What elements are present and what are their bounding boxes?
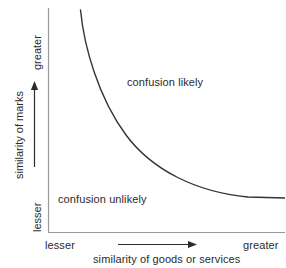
confusion-threshold-curve bbox=[81, 10, 286, 198]
y-axis-low-label: lesser bbox=[31, 203, 43, 232]
x-axis-low-label: lesser bbox=[45, 239, 75, 251]
y-axis-high-label: greater bbox=[31, 35, 43, 70]
region-label-confusion-unlikely: confusion unlikely bbox=[58, 193, 147, 205]
x-axis-title: similarity of goods or services bbox=[93, 253, 240, 265]
x-axis-high-label: greater bbox=[243, 239, 279, 251]
y-axis-up-arrow-icon bbox=[31, 81, 38, 167]
x-axis-right-arrow-icon bbox=[118, 241, 197, 248]
likelihood-of-confusion-chart: greater lesser similarity of marks confu… bbox=[0, 0, 285, 268]
region-label-confusion-likely: confusion likely bbox=[127, 76, 203, 88]
y-axis-title: similarity of marks bbox=[13, 91, 25, 179]
